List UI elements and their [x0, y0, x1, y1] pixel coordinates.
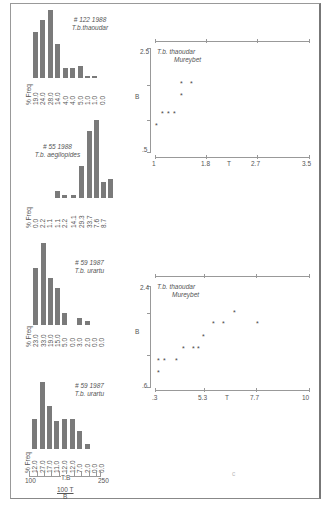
bar — [63, 68, 68, 78]
bottom-axis — [155, 390, 310, 391]
data-point: * — [233, 310, 236, 316]
bar — [62, 419, 67, 449]
bar — [48, 278, 53, 325]
scatter-plot-2: 2.4 B .6 .3 5.3 T 7.7 10 T.b. thaoudar M… — [135, 270, 330, 405]
axis-tick — [309, 155, 310, 159]
bar — [55, 191, 60, 198]
bar — [41, 243, 46, 325]
bar — [85, 321, 90, 325]
axis-tick — [51, 471, 52, 476]
bars — [0, 243, 130, 325]
bar — [94, 120, 99, 198]
bar — [77, 318, 82, 325]
axis-tick — [206, 155, 207, 159]
data-point: * — [161, 111, 164, 117]
axis-tick — [147, 152, 151, 153]
data-point: * — [155, 123, 158, 129]
cat-label: 0.0 — [91, 338, 98, 347]
scatter-title-taxon: T.b. thaoudar — [157, 283, 212, 291]
axis-tick — [257, 155, 258, 159]
freq-label: % Freq — [24, 452, 31, 473]
bar — [55, 44, 60, 78]
scatter-title: T.b. thaoudar Mureybet — [157, 283, 212, 299]
cat-label: 2.0 — [84, 338, 91, 347]
bar — [33, 268, 38, 325]
scatter-title: T.b. thaoudar Mureybet — [157, 48, 207, 64]
freq-label: % Freq — [25, 326, 32, 347]
bar — [92, 76, 97, 78]
y-bottom-label: .6 — [142, 382, 147, 389]
bar — [33, 32, 38, 78]
axis-tick — [29, 471, 30, 476]
top-axis — [155, 276, 310, 277]
axis-tick — [309, 39, 310, 43]
data-point: * — [167, 111, 170, 117]
bar — [40, 20, 45, 78]
data-point: * — [190, 81, 193, 87]
bar — [85, 444, 90, 449]
bar — [77, 431, 82, 449]
data-point: * — [157, 358, 160, 364]
axis-tick — [96, 471, 97, 476]
bars — [0, 8, 130, 78]
cat-label: 1.0 — [91, 96, 98, 105]
y-axis-label: B — [135, 328, 139, 335]
y-top-label: 2.4 — [140, 284, 149, 291]
data-point: * — [180, 81, 183, 87]
cat-label: 4.0 — [69, 96, 76, 105]
cat-label: 3.0 — [76, 338, 83, 347]
data-point: * — [256, 321, 259, 327]
axis-mid-label: T:B — [61, 474, 70, 481]
axis-tick — [147, 313, 151, 314]
cat-label: 0.0 — [99, 96, 106, 105]
scatter-title-site: Mureybet — [157, 291, 212, 299]
cat-label: 4.0 — [62, 96, 69, 105]
data-point: * — [180, 93, 183, 99]
axis-tick — [155, 39, 156, 43]
cat-label: 0.0 — [32, 219, 39, 228]
axis-tick — [147, 85, 151, 86]
axis-tick — [204, 274, 205, 278]
data-point: * — [157, 370, 160, 376]
left-axis — [150, 286, 151, 388]
data-point: * — [192, 346, 195, 352]
left-axis — [150, 48, 151, 152]
bar — [54, 421, 59, 449]
histogram-urartu-1987-b: # 59 1987 T.b. urartu % Freq 12.0 27.0 1… — [0, 360, 130, 500]
bars — [0, 120, 130, 198]
axis-tick — [37, 471, 38, 476]
x-axis-label: T — [225, 394, 229, 401]
bar — [62, 195, 67, 198]
cat-label: 33.0 — [40, 334, 47, 347]
data-point: * — [197, 346, 200, 352]
x-tick-label: 3.5 — [302, 160, 311, 167]
cat-label: 23.0 — [32, 334, 39, 347]
cat-label: 1.1 — [54, 219, 61, 228]
x-tick-label: 10 — [302, 394, 309, 401]
data-point: * — [202, 334, 205, 340]
axis-tick — [257, 39, 258, 43]
freq-label: % Freq — [25, 84, 32, 105]
x-tick-label: 7.7 — [250, 394, 259, 401]
scatter-plot-1: 2.5 B .5 1 1.8 T 2.7 3.5 T.b. thaoudar M… — [135, 35, 330, 170]
bar — [47, 406, 52, 449]
cat-label: 5.0 — [77, 96, 84, 105]
axis-tick — [74, 471, 75, 476]
y-top-label: 2.5 — [140, 48, 149, 55]
data-point: * — [175, 358, 178, 364]
x-tick-label: 1.8 — [201, 160, 210, 167]
y-axis-label: B — [135, 93, 139, 100]
axis-tick — [147, 355, 151, 356]
bar — [70, 68, 75, 78]
axis-max-label: 250 — [98, 477, 109, 484]
cat-label: 8.7 — [100, 219, 107, 228]
axis-tick — [147, 387, 151, 388]
x-tick-label: 1 — [152, 160, 156, 167]
data-point: * — [212, 321, 215, 327]
cat-label: 0.0 — [69, 338, 76, 347]
cat-label: 29.3 — [78, 215, 85, 228]
bar — [85, 76, 90, 78]
axis-tick — [256, 274, 257, 278]
y-bottom-label: .5 — [142, 146, 147, 153]
data-point: * — [222, 321, 225, 327]
